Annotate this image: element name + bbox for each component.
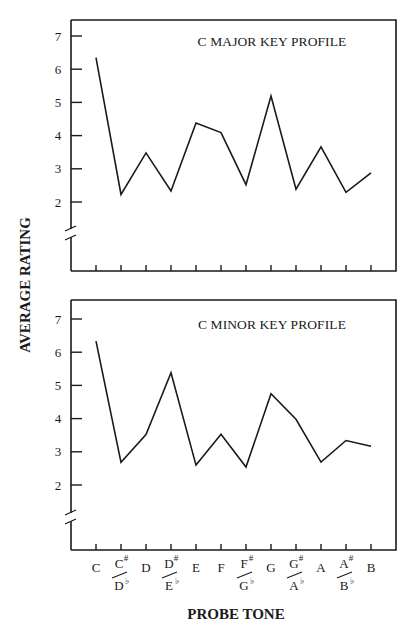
svg-text:D: D [164, 556, 173, 571]
svg-text:G: G [289, 556, 298, 571]
svg-text:B: B [367, 560, 376, 575]
x-tick-label: G [266, 560, 275, 575]
minor-profile-line [96, 341, 371, 467]
x-tick-label: C [92, 560, 101, 575]
y-tick-label: 6 [55, 345, 62, 360]
y-axis-title: AVERAGE RATING [17, 217, 33, 353]
y-tick-label: 7 [55, 29, 62, 44]
panel-frame [71, 20, 396, 271]
svg-text:E: E [192, 560, 200, 575]
svg-text:♭: ♭ [300, 576, 304, 586]
svg-text:G: G [266, 560, 275, 575]
key-profile-figure: AVERAGE RATING C MAJOR KEY PROFILE 23456… [0, 0, 412, 638]
svg-text:#: # [349, 553, 354, 563]
x-tick-label: E [192, 560, 200, 575]
svg-text:A: A [289, 578, 299, 593]
svg-text:C: C [115, 556, 124, 571]
y-tick-label: 4 [55, 128, 62, 143]
svg-text:#: # [124, 553, 129, 563]
x-tick-label: C#D♭ [112, 553, 129, 593]
svg-text:♭: ♭ [125, 576, 129, 586]
y-tick-label: 6 [55, 62, 62, 77]
svg-text:A: A [316, 560, 326, 575]
y-tick-label: 5 [55, 95, 62, 110]
x-tick-label: A#B♭ [337, 553, 354, 593]
panel-title-minor: C MINOR KEY PROFILE [198, 317, 346, 332]
svg-text:♭: ♭ [250, 576, 254, 586]
y-tick-label: 5 [55, 378, 62, 393]
panel-frame [71, 300, 396, 550]
svg-text:D: D [141, 560, 150, 575]
x-tick-label: D [141, 560, 150, 575]
x-tick-labels: CC#D♭DD#E♭EFF#G♭GG#A♭AA#B♭B [92, 553, 376, 593]
y-tick-label: 3 [55, 161, 62, 176]
svg-text:G: G [239, 578, 248, 593]
svg-text:♭: ♭ [175, 576, 179, 586]
y-tick-label: 2 [55, 195, 62, 210]
svg-text:#: # [299, 553, 304, 563]
x-axis-title: PROBE TONE [187, 606, 284, 622]
svg-text:F: F [240, 556, 247, 571]
major-profile-panel: C MAJOR KEY PROFILE 234567 [55, 20, 396, 271]
x-tick-label: F [217, 560, 224, 575]
svg-text:D: D [114, 578, 123, 593]
y-tick-label: 4 [55, 411, 62, 426]
svg-text:F: F [217, 560, 224, 575]
y-tick-label: 7 [55, 312, 62, 327]
svg-text:♭: ♭ [350, 576, 354, 586]
svg-text:B: B [340, 578, 349, 593]
svg-text:#: # [249, 553, 254, 563]
y-tick-label: 3 [55, 444, 62, 459]
x-tick-label: D#E♭ [162, 553, 179, 593]
svg-text:#: # [174, 553, 179, 563]
x-tick-label: G#A♭ [287, 553, 304, 593]
minor-profile-panel: C MINOR KEY PROFILE 234567 [55, 300, 396, 550]
panel-title-major: C MAJOR KEY PROFILE [198, 34, 347, 49]
x-tick-label: A [316, 560, 326, 575]
svg-text:E: E [165, 578, 173, 593]
major-profile-line [96, 58, 371, 195]
y-tick-label: 2 [55, 478, 62, 493]
x-tick-label: B [367, 560, 376, 575]
svg-text:C: C [92, 560, 101, 575]
x-tick-label: F#G♭ [237, 553, 254, 593]
